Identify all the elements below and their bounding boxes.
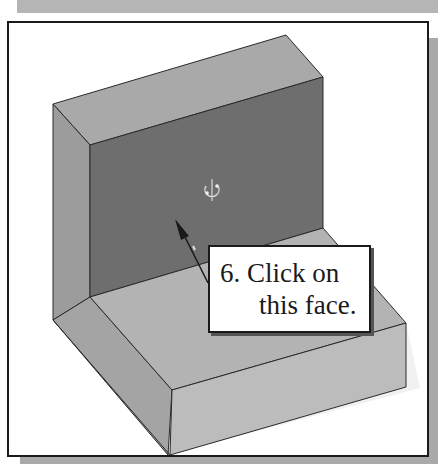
instruction-callout: 6. Click on this face.	[208, 245, 371, 333]
callout-line-2: this face.	[220, 289, 369, 321]
3d-model-viewport[interactable]	[0, 0, 438, 464]
callout-line-1: 6. Click on	[220, 257, 369, 289]
